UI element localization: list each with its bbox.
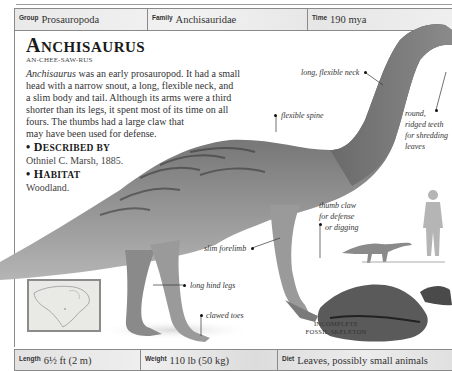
annotation-dot	[319, 223, 322, 226]
annotation-hindlegs: long hind legs	[190, 280, 235, 291]
habitat-heading: • HABITAT	[26, 167, 80, 182]
annotation-forelimb: slim forelimb	[204, 243, 246, 254]
length-cell: Length 6½ ft (2 m)	[15, 350, 141, 370]
page-title: ANCHISAURUS	[26, 34, 145, 57]
described-by-heading: • DESCRIBED BY	[26, 140, 110, 155]
weight-value: 110 lb (50 kg)	[170, 355, 229, 366]
diet-value: Leaves, possibly small animals	[297, 355, 428, 366]
length-label: Length	[19, 355, 41, 362]
annotation-spine: flexible spine	[281, 110, 323, 121]
length-value: 6½ ft (2 m)	[44, 355, 92, 366]
annotation-dot	[435, 109, 438, 112]
weight-cell: Weight 110 lb (50 kg)	[141, 350, 278, 370]
north-america-map-icon	[29, 281, 99, 330]
habitat-value: Woodland.	[26, 182, 69, 193]
weight-label: Weight	[145, 355, 167, 362]
annotation-teeth: round, ridged teeth for shredding leaves	[405, 108, 448, 152]
annotation-dot	[251, 247, 254, 250]
diet-label: Diet	[282, 355, 294, 362]
diet-cell: Diet Leaves, possibly small animals	[278, 350, 452, 370]
pronunciation: AN-CHEE-SAW-RUS	[26, 56, 93, 64]
description-paragraph: Anchisaurus was an early prosauropod. It…	[26, 68, 246, 141]
annotation-neck: long, flexible neck	[301, 67, 359, 78]
described-by-value: Othniel C. Marsh, 1885.	[26, 155, 123, 166]
footer-bar: Length 6½ ft (2 m) Weight 110 lb (50 kg)…	[14, 349, 452, 371]
annotation-dot	[200, 314, 203, 317]
annotation-thumb: thumb claw for defense or digging	[319, 200, 359, 233]
annotation-dot	[274, 114, 277, 117]
annotation-toes: clawed toes	[206, 310, 244, 321]
annotation-dot	[364, 71, 367, 74]
annotation-dot	[183, 284, 186, 287]
fossil-caption: INCOMPLETE FOSSIL SKELETON	[286, 320, 386, 336]
distribution-map	[27, 279, 101, 332]
